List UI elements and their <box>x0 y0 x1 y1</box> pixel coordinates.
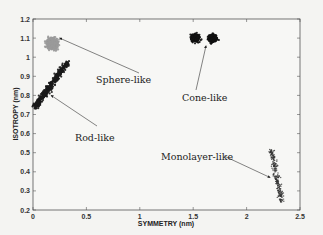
x-tick-label: 1.5 <box>188 213 198 220</box>
annotation-label: Sphere-like <box>96 74 152 85</box>
x-tick-label: 1 <box>138 213 142 220</box>
y-tick-label: 0.2 <box>20 207 30 214</box>
x-tick-label: 2 <box>245 213 249 220</box>
y-tick-label: 0.9 <box>20 73 30 80</box>
y-tick-label: 1.2 <box>20 16 30 23</box>
y-tick-label: 0.3 <box>20 187 30 194</box>
y-tick-label: 0.6 <box>20 130 30 137</box>
y-tick-label: 1.1 <box>20 35 30 42</box>
scatter-chart: 00.511.522.5 0.20.30.40.50.60.70.80.911.… <box>0 0 323 235</box>
plot-area <box>33 19 300 210</box>
y-tick-label: 0.4 <box>20 168 30 175</box>
y-tick-label: 0.8 <box>20 92 30 99</box>
x-axis-label: SYMMETRY (nm) <box>138 220 194 228</box>
y-tick-label: 1 <box>26 54 30 61</box>
annotation-label: Monolayer-like <box>161 151 234 162</box>
annotation-label: Cone-like <box>182 92 228 103</box>
x-tick-label: 0.5 <box>82 213 92 220</box>
y-axis-label: ISOTROPY (nm) <box>12 87 20 140</box>
annotation-label: Rod-like <box>75 132 115 143</box>
y-tick-label: 0.5 <box>20 149 30 156</box>
y-tick-label: 0.7 <box>20 111 30 118</box>
x-tick-label: 0 <box>31 213 35 220</box>
x-tick-label: 2.5 <box>295 213 305 220</box>
